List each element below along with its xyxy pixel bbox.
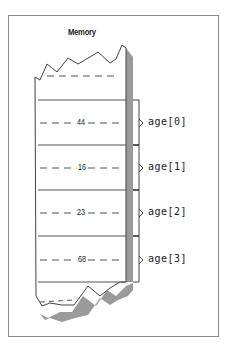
cell-value-3: 68 [76,254,87,264]
bracket [133,100,139,282]
memory-stack-graphic [0,0,225,344]
cell-label-0: age[0] [148,116,187,127]
cell-value-2: 23 [75,207,86,217]
stack-front [35,45,126,306]
cell-value-0: 44 [75,117,86,127]
cell-label-1: age[1] [148,161,187,172]
cell-label-3: age[3] [148,253,187,264]
stack-shadow-side [126,48,133,282]
cell-label-2: age[2] [148,206,187,217]
cell-value-1: 16 [76,162,87,172]
